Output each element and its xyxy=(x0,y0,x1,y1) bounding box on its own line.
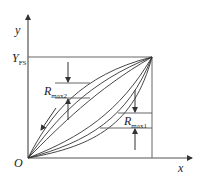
origin-label: O xyxy=(14,156,23,170)
hysteresis-diagram: y x O YFS Rmax2 Rmax1 xyxy=(0,0,203,180)
direction-arrow-unloading xyxy=(41,108,56,130)
rmax1-label: Rmax1 xyxy=(123,114,147,130)
curve-upper-3 xyxy=(28,57,152,158)
curve-group xyxy=(28,57,152,158)
y-axis-label: y xyxy=(14,23,21,37)
rmax1-subscript: max1 xyxy=(131,122,147,130)
x-axis-label: x xyxy=(177,161,184,175)
rmax2-label: Rmax2 xyxy=(43,84,67,100)
rmax2-subscript: max2 xyxy=(51,92,67,100)
curve-lower-2 xyxy=(28,57,152,158)
curve-upper-1 xyxy=(28,57,152,158)
curve-upper-2 xyxy=(28,57,152,158)
curve-lower-3 xyxy=(28,57,152,158)
y-fullscale-subscript: FS xyxy=(19,59,27,67)
y-fullscale-label: YFS xyxy=(12,51,27,67)
curve-lower-1 xyxy=(28,57,152,158)
